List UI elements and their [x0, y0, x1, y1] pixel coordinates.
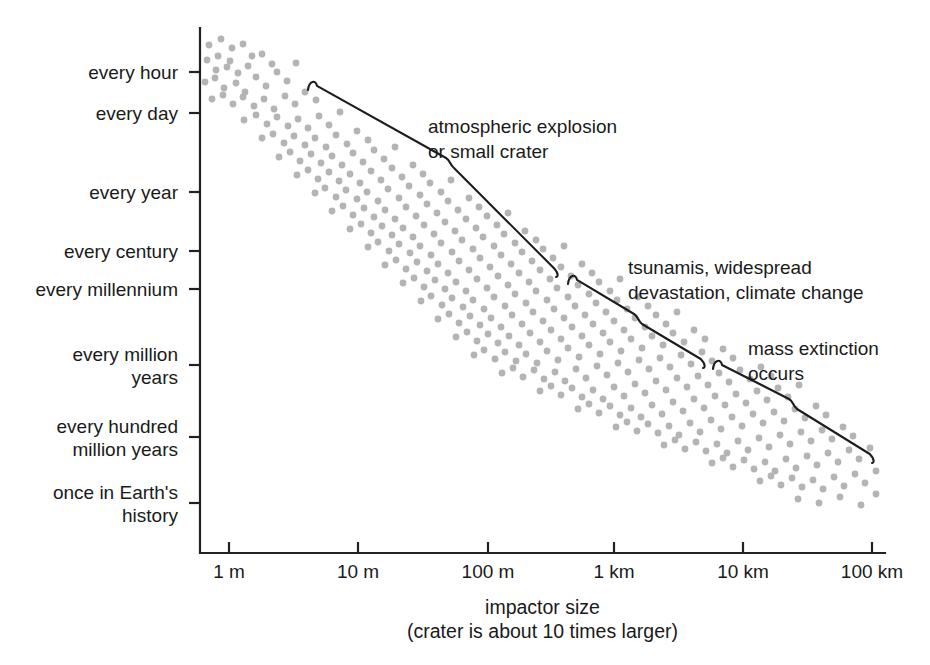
scatter-point	[649, 402, 656, 409]
scatter-point	[850, 433, 857, 440]
scatter-point	[873, 468, 880, 475]
scatter-point	[663, 321, 670, 328]
scatter-point	[558, 336, 565, 343]
scatter-point	[378, 177, 385, 184]
scatter-point	[305, 167, 312, 174]
scatter-point	[403, 204, 410, 211]
scatter-point	[858, 502, 865, 509]
scatter-point	[533, 237, 540, 244]
scatter-point	[527, 330, 534, 337]
scatter-point	[448, 177, 455, 184]
scatter-point	[607, 288, 614, 295]
scatter-point	[339, 162, 346, 169]
scatter-point	[682, 446, 689, 453]
scatter-point	[421, 222, 428, 229]
x-tick-label: 10 m	[337, 561, 379, 582]
scatter-point	[442, 286, 449, 293]
scatter-point	[529, 258, 536, 265]
scatter-point	[820, 486, 827, 493]
scatter-point	[778, 482, 785, 489]
scatter-point	[365, 244, 372, 251]
scatter-point	[565, 294, 572, 301]
scatter-point	[787, 441, 794, 448]
scatter-point	[274, 69, 281, 76]
scatter-point	[424, 268, 431, 275]
scatter-point	[249, 53, 256, 60]
scatter-point	[452, 228, 459, 235]
x-tick-label: 1 km	[593, 561, 634, 582]
scatter-point	[323, 144, 330, 151]
scatter-point	[666, 423, 673, 430]
scatter-point	[548, 383, 555, 390]
scatter-point	[628, 336, 635, 343]
scatter-point	[261, 96, 268, 103]
scatter-point	[371, 147, 378, 154]
scatter-point	[453, 279, 460, 286]
scatter-point	[295, 116, 302, 123]
scatter-point	[583, 375, 590, 382]
scatter-point	[326, 169, 333, 176]
scatter-point	[445, 270, 452, 277]
scatter-point	[270, 131, 277, 138]
scatter-point	[856, 456, 863, 463]
scatter-point	[699, 349, 706, 356]
scatter-point	[730, 355, 737, 362]
scatter-point	[837, 494, 844, 501]
scatter-point	[550, 255, 557, 262]
scatter-point	[281, 140, 288, 147]
scatter-point	[663, 387, 670, 394]
scatter-point	[604, 372, 611, 379]
scatter-point	[768, 473, 775, 480]
scatter-point	[316, 113, 323, 120]
scatter-point	[558, 264, 565, 271]
scatter-point	[655, 430, 662, 437]
scatter-point	[691, 396, 698, 403]
x-tick-label: 1 m	[213, 561, 245, 582]
scatter-point	[368, 230, 375, 237]
scatter-point	[745, 447, 752, 454]
scatter-point	[523, 351, 530, 358]
scatter-point	[403, 266, 410, 273]
y-tick-label: every century	[64, 241, 179, 262]
scatter-point	[777, 432, 784, 439]
scatter-point	[621, 327, 628, 334]
scatter-point	[589, 270, 596, 277]
scatter-point	[691, 327, 698, 334]
scatter-point	[600, 396, 607, 403]
scatter-point	[712, 393, 719, 400]
scatter-point	[253, 74, 260, 81]
scatter-point	[569, 385, 576, 392]
scatter-point	[445, 198, 452, 205]
scatter-point	[347, 226, 354, 233]
scatter-point	[343, 187, 350, 194]
scatter-point	[455, 207, 462, 214]
y-tick-label: every millennium	[35, 279, 178, 300]
scatter-point	[586, 401, 593, 408]
scatter-point	[873, 491, 880, 498]
scatter-point	[720, 346, 727, 353]
scatter-point	[766, 444, 773, 451]
y-tick-label: every day	[96, 103, 179, 124]
scatter-point	[386, 248, 393, 255]
scatter-point	[417, 192, 424, 199]
scatter-point	[494, 222, 501, 229]
scatter-point	[586, 342, 593, 349]
scatter-point	[417, 243, 424, 250]
scatter-point	[611, 384, 618, 391]
scatter-point	[642, 390, 649, 397]
scatter-point	[743, 400, 750, 407]
scatter-point	[573, 366, 580, 373]
scatter-point	[322, 185, 329, 192]
scatter-point	[561, 243, 568, 250]
scatter-point	[434, 210, 441, 217]
scatter-point	[505, 282, 512, 289]
scatter-point	[579, 333, 586, 340]
scatter-point	[312, 135, 319, 142]
scatter-point	[336, 178, 343, 185]
x-axis-tick-labels: 1 m10 m100 m1 km10 km100 km	[213, 561, 903, 582]
scatter-point	[329, 208, 336, 215]
scatter-point	[326, 122, 333, 129]
scatter-point	[607, 403, 614, 410]
scatter-point	[474, 276, 481, 283]
x-axis-title-line1: impactor size	[485, 596, 600, 618]
